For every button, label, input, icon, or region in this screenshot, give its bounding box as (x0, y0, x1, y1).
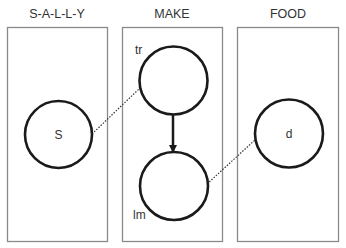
edge-lm-to-d (207, 139, 256, 184)
node-lm (140, 152, 208, 220)
node-d-label: d (286, 127, 293, 141)
plate-title-make: MAKE (154, 7, 189, 21)
node-s-label: S (54, 128, 62, 142)
diagram-canvas: S-A-L-L-Y MAKE FOOD S tr lm d (0, 0, 346, 248)
plate-title-sally: S-A-L-L-Y (29, 7, 85, 21)
edge-s-to-tr (92, 88, 140, 134)
plate-title-food: FOOD (270, 7, 306, 21)
node-tr (140, 47, 208, 115)
node-tr-label: tr (135, 43, 142, 57)
node-lm-label: lm (133, 208, 146, 222)
